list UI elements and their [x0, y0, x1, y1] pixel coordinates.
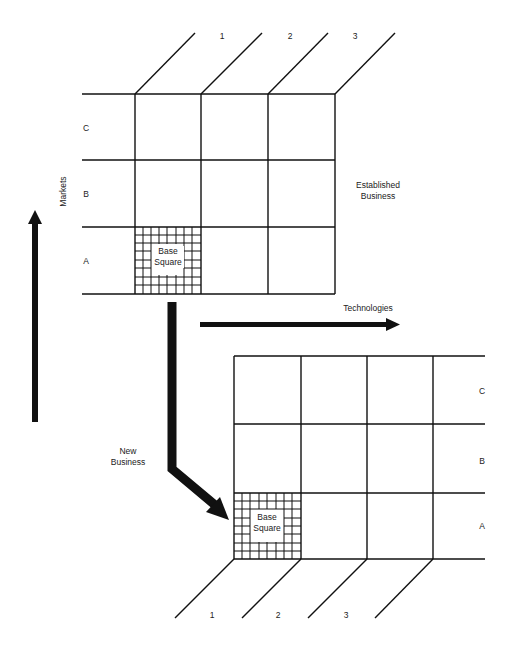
technologies-arrow-icon — [200, 318, 400, 331]
bottom-base-square-line1: Base — [251, 512, 283, 523]
established-line1: Established — [348, 180, 408, 191]
top-grid — [82, 33, 395, 294]
diagram-canvas — [0, 0, 511, 650]
new-line2: Business — [103, 457, 153, 468]
bottom-base-square-line2: Square — [251, 523, 283, 534]
top-base-square-line2: Square — [152, 257, 184, 268]
bottom-col-label-2: 2 — [272, 610, 284, 621]
top-col-label-1: 1 — [216, 31, 228, 42]
markets-label: Markets — [58, 167, 69, 217]
bottom-row-label-b: B — [476, 456, 488, 467]
top-row-label-c: C — [80, 123, 92, 134]
bottom-col-label-3: 3 — [340, 610, 352, 621]
new-business-label: New Business — [103, 446, 153, 468]
bottom-base-square-label: Base Square — [251, 512, 283, 534]
bottom-col-label-1: 1 — [206, 610, 218, 621]
top-row-label-b: B — [80, 189, 92, 200]
technologies-label: Technologies — [338, 303, 398, 314]
established-business-label: Established Business — [348, 180, 408, 202]
top-col-label-3: 3 — [349, 31, 361, 42]
bottom-row-label-c: C — [476, 386, 488, 397]
markets-arrow-icon — [28, 210, 42, 422]
established-line2: Business — [348, 191, 408, 202]
top-base-square-line1: Base — [152, 246, 184, 257]
new-business-arrow-icon — [172, 302, 229, 520]
bottom-row-label-a: A — [476, 521, 488, 532]
top-base-square-label: Base Square — [152, 246, 184, 268]
bottom-grid — [175, 356, 485, 618]
top-col-label-2: 2 — [284, 31, 296, 42]
new-line1: New — [103, 446, 153, 457]
top-row-label-a: A — [80, 256, 92, 267]
